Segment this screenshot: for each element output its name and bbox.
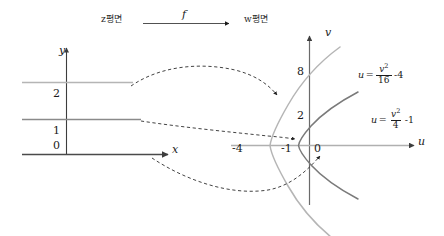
equation-inner-constant: -1	[405, 115, 414, 125]
w-axis-v-label: v	[325, 27, 331, 38]
z-plane-title: z평면	[101, 15, 122, 24]
dashed-arrow-y2	[131, 66, 277, 95]
z-tick-2: 2	[53, 88, 60, 99]
equation-outer-constant: -4	[394, 70, 403, 80]
equation-inner-lhs: u	[371, 115, 377, 125]
w-axis-u-label: u	[418, 136, 425, 147]
equation-inner-equals: =	[379, 115, 387, 125]
equation-outer-numerator: v2	[377, 65, 390, 75]
z-tick-0: 0	[53, 140, 60, 151]
w-tick-u-0: 0	[314, 143, 321, 154]
equation-outer-parabola: u = v2 16 -4	[358, 65, 403, 85]
equation-outer-equals: =	[366, 70, 374, 80]
equation-inner-fraction: v2 4	[389, 110, 402, 130]
equation-outer-fraction: v2 16	[376, 65, 391, 85]
figure-canvas: z평면 f w평면 y x 2 1 0 v u 8 2 -4 -1 0 u = …	[0, 0, 444, 236]
equation-inner-parabola: u = v2 4 -1	[371, 110, 414, 130]
equation-outer-denominator: 16	[376, 75, 391, 86]
w-tick-u-minus4: -4	[232, 143, 243, 154]
map-function-label: f	[182, 9, 186, 20]
equation-inner-denominator: 4	[391, 120, 401, 131]
equation-inner-numerator: v2	[389, 110, 402, 120]
w-tick-v-2: 2	[297, 110, 304, 121]
w-tick-v-8: 8	[297, 66, 304, 77]
equation-outer-lhs: u	[358, 70, 364, 80]
z-tick-1: 1	[53, 125, 60, 136]
w-plane-title: w평면	[244, 15, 268, 24]
z-axis-y-label: y	[59, 45, 65, 56]
z-axis-x-label: x	[172, 144, 178, 155]
dashed-arrow-y0	[152, 156, 320, 191]
w-tick-u-minus1: -1	[281, 143, 292, 154]
